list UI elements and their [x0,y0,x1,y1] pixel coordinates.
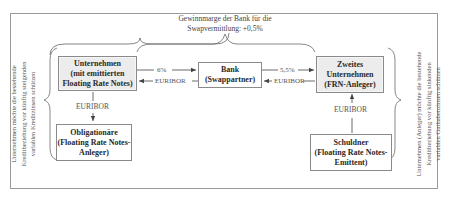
company2-line1: Zweites [337,60,363,70]
flow-label-euribor-to-bondholders: EURIBOR [76,103,109,111]
flow-label-6pct: 6% [157,66,166,74]
left-side-note: Unternehmen möchte die bestehende Kredit… [9,39,38,189]
flow-label-euribor-bank-to-company1: EURIBOR [155,77,186,85]
flow-label-euribor-from-debtor: EURIBOR [334,106,367,114]
bank-margin-note: Gewinnmarge der Bank für die Swapvermitt… [150,14,300,34]
debtor-line1: Schuldner [333,138,368,148]
bank-line2: (Swappartner) [205,75,255,85]
company1-line1: Unternehmen [74,59,121,69]
flow-label-5-5pct: 5,5% [280,66,295,74]
bondholders-box: Obligationäre (Floating Rate Notes- Anle… [56,124,132,161]
bondholders-line3: Anleger) [79,148,109,158]
left-side-note-line1: Unternehmen möchte die bestehende [9,39,19,189]
company2-line3: (FRN-Anleger) [324,80,376,90]
bank-margin-note-line2: Swapvermittlung: +0,5% [150,24,300,34]
bank-line1: Bank [221,65,239,75]
bank-margin-note-line1: Gewinnmarge der Bank für die [150,14,300,24]
bank-box: Bank (Swappartner) [198,62,262,88]
company1-line3: Floating Rate Notes) [62,79,132,89]
right-side-note-line2: Kreditbeziehung vor künftig sinkenden [424,29,434,199]
company2-box: Zweites Unternehmen (FRN-Anleger) [316,56,384,93]
right-side-note-line3: variablen Guthabenzinsen schützen [433,29,443,199]
debtor-line2: (Floating Rate Notes- [315,148,388,158]
company1-box: Unternehmen (mit emittierten Floating Ra… [58,56,137,91]
left-side-note-line2: Kreditbeziehung vor künftig steigenden [19,39,29,189]
debtor-box: Schuldner (Floating Rate Notes- Emittent… [310,134,392,171]
company1-line2: (mit emittierten [71,69,125,79]
right-side-note-line1: Unternehmen (Anleger) möchte die bestehe… [414,29,424,199]
company2-line2: Unternehmen [326,70,373,80]
left-side-note-line3: variablen Kreditzinsen schützen [28,39,38,189]
bondholders-line1: Obligationäre [70,128,117,138]
flow-label-euribor-company2-to-bank: EURIBOR [274,77,305,85]
bondholders-line2: (Floating Rate Notes- [58,138,131,148]
debtor-line3: Emittent) [335,158,368,168]
right-side-note: Unternehmen (Anleger) möchte die bestehe… [414,29,443,199]
